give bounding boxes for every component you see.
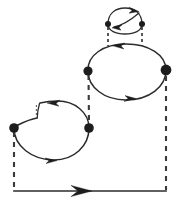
vertex-bottom-left — [9, 123, 19, 133]
top-loop-group — [108, 7, 142, 34]
top-loop-inner-strand — [114, 13, 139, 27]
middle-loop-group — [88, 43, 166, 101]
bottom-loop-lower-arc — [14, 128, 89, 160]
diagram-canvas — [0, 0, 178, 209]
link-middle-dashed — [89, 75, 90, 124]
vertex-bottom-right — [84, 123, 94, 133]
vertex-middle-left — [83, 66, 92, 75]
bottom-loop-notch-return — [18, 118, 37, 125]
loop-diagram — [0, 0, 178, 209]
bottom-loop-upper-arc — [40, 101, 89, 128]
vertex-top-left — [105, 21, 111, 27]
dashed-links-group — [14, 27, 166, 190]
middle-loop-upper-arc — [88, 44, 166, 71]
bottom-loop-group — [14, 100, 89, 163]
middle-loop-lower-arc — [88, 70, 166, 100]
arrow-bottom-lower-icon — [45, 158, 57, 164]
vertex-middle-right — [161, 65, 172, 76]
vertices-group — [9, 21, 171, 133]
top-loop-lower-arc — [108, 24, 142, 34]
bottom-loop-notch-wall — [37, 104, 39, 119]
base-line-group — [14, 185, 166, 196]
vertex-top-right — [139, 21, 145, 27]
